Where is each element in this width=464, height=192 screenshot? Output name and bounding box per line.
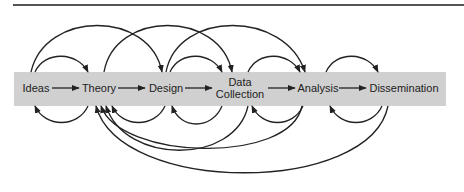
node-theory: Theory	[80, 82, 118, 94]
node-ideas: Ideas	[20, 82, 52, 94]
arc-dissemination-theory	[96, 106, 388, 173]
arc-design-analysis	[166, 26, 305, 73]
arc-analysis-dissemination	[326, 56, 378, 72]
node-label-line1: Data	[212, 76, 268, 88]
node-label: Ideas	[23, 82, 50, 94]
node-analysis: Analysis	[296, 82, 340, 94]
arc-ideas-design	[31, 26, 162, 73]
node-dissemination: Dissemination	[368, 82, 440, 94]
arc-data-design	[172, 106, 222, 124]
node-label: Analysis	[298, 82, 339, 94]
node-label: Dissemination	[369, 82, 438, 94]
node-data-collection: Data Collection	[212, 76, 268, 100]
node-label: Design	[149, 82, 183, 94]
arc-analysis-theory	[101, 106, 302, 148]
node-label-line2: Collection	[212, 88, 268, 100]
arc-theory-ideas	[35, 106, 88, 123]
arc-dissemination-analysis	[330, 106, 382, 123]
arc-ideas-theory	[35, 56, 88, 72]
arc-data-analysis	[248, 56, 300, 72]
arc-data-theory	[106, 106, 248, 150]
node-design: Design	[147, 82, 185, 94]
node-label: Theory	[82, 82, 116, 94]
arc-design-data	[170, 56, 222, 72]
arc-design-theory	[112, 106, 165, 123]
